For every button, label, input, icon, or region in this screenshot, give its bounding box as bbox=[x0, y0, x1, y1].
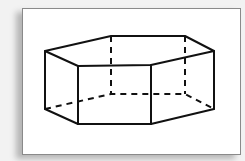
bottom-visible-edges bbox=[45, 109, 214, 124]
top-face bbox=[45, 36, 214, 66]
bottom-hidden-edges bbox=[45, 94, 214, 109]
hexagonal-prism-diagram bbox=[0, 0, 245, 161]
